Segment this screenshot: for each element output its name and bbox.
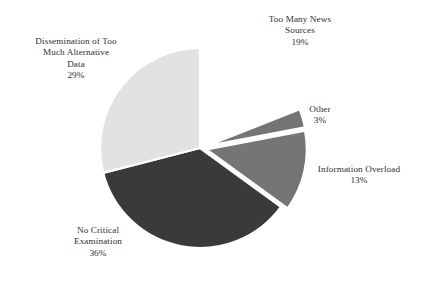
slice-label-line: Too Many News xyxy=(236,14,364,25)
slice-label-line: Information Overload xyxy=(296,164,422,175)
slice-label-percent: 29% xyxy=(2,70,150,81)
slice-label-line: Other xyxy=(284,104,356,115)
slice-label-line: No Critical xyxy=(34,225,162,236)
pie-chart-figure: Too Many News Sources 19% Dissemination … xyxy=(0,0,423,284)
slice-label-percent: 3% xyxy=(284,115,356,126)
slice-label-line: Data xyxy=(2,59,150,70)
slice-label-percent: 36% xyxy=(34,248,162,259)
slice-label-percent: 13% xyxy=(296,175,422,186)
slice-label-other: Other 3% xyxy=(284,104,356,127)
slice-label-line: Dissemination of Too xyxy=(2,36,150,47)
slice-label-too-many-news-sources: Too Many News Sources 19% xyxy=(236,14,364,48)
slice-label-line: Sources xyxy=(236,25,364,36)
slice-label-information-overload: Information Overload 13% xyxy=(296,164,422,187)
slice-label-line: Examination xyxy=(34,236,162,247)
slice-label-dissemination-alternative-data: Dissemination of Too Much Alternative Da… xyxy=(2,36,150,82)
slice-label-line: Much Alternative xyxy=(2,47,150,58)
slice-label-no-critical-examination: No Critical Examination 36% xyxy=(34,225,162,259)
slice-label-percent: 19% xyxy=(236,37,364,48)
